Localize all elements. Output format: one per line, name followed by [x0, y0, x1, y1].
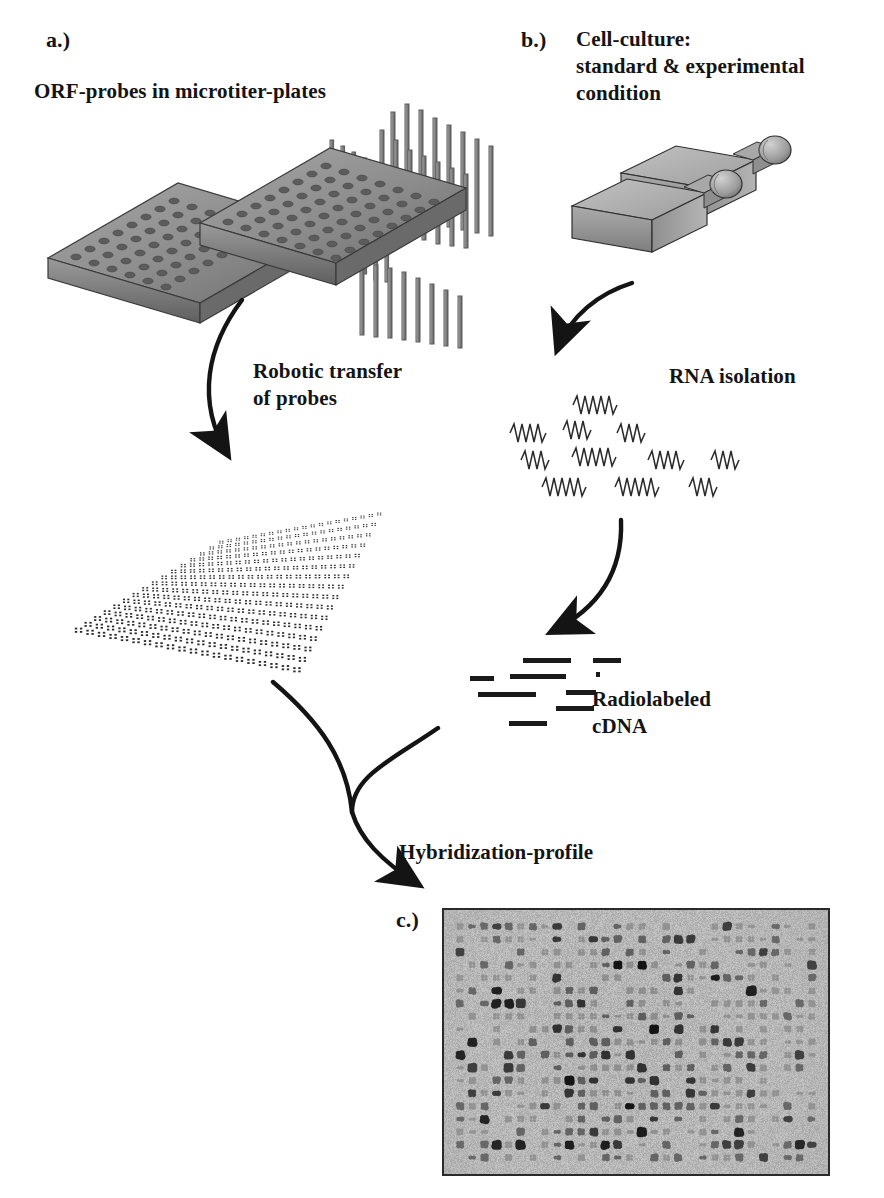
- cell-culture-flask-back: [621, 136, 791, 217]
- hybridization-profile-label: Hybridization-profile: [399, 839, 593, 866]
- panel-letter-a: a.): [46, 26, 70, 54]
- pin-array-lower: [360, 263, 462, 348]
- arrow-plates-to-filter: [209, 300, 242, 455]
- pin-array-over-plate: [330, 140, 389, 282]
- arrow-rna-to-cdna: [551, 520, 621, 632]
- hybridization-autoradiograph: [442, 908, 830, 1176]
- autoradiograph-image: [444, 910, 828, 1174]
- radiolabeled-cdna-label: Radiolabeled cDNA: [592, 686, 711, 740]
- panel-a-heading: ORF-probes in microtiter-plates: [34, 78, 326, 105]
- filter-membrane: [75, 513, 381, 673]
- pin-array-upper: [380, 104, 493, 248]
- panel-b-heading: Cell-culture: standard & experimental co…: [576, 26, 805, 107]
- robotic-transfer-label: Robotic transfer of probes: [253, 358, 402, 412]
- rna-squiggles: [510, 396, 739, 496]
- cell-culture-flask-front: [572, 170, 742, 252]
- microtiter-plate-left: [48, 183, 330, 323]
- rna-isolation-label: RNA isolation: [669, 363, 796, 390]
- plate-left-wells: [71, 198, 269, 290]
- panel-letter-c: c.): [396, 906, 419, 934]
- figure-root: a.) ORF-probes in microtiter-plates b.) …: [0, 0, 884, 1198]
- panel-letter-b: b.): [521, 26, 546, 54]
- arrow-flasks-to-rna: [557, 283, 632, 350]
- microtiter-plate-right: [200, 148, 466, 285]
- plate-right-wells: [223, 163, 439, 261]
- arrow-filter-to-hybridization: [273, 682, 352, 812]
- arrow-cdna-to-hybridization: [352, 728, 438, 812]
